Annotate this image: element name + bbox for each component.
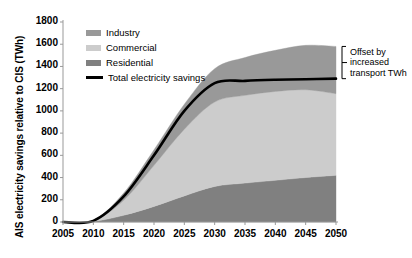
y-tick-label: 0 <box>20 215 58 226</box>
legend-item-total-electricity-savings: Total electricity savings <box>86 72 205 83</box>
legend-color-swatch-icon <box>86 45 101 51</box>
offset-annotation-line-3: transport TWh <box>350 68 407 79</box>
legend-item-label: Commercial <box>106 42 157 53</box>
y-tick-label: 800 <box>20 126 58 137</box>
plot-area <box>0 0 412 258</box>
y-tick-label: 200 <box>20 193 58 204</box>
y-tick-label: 1400 <box>20 59 58 70</box>
y-tick-label: 600 <box>20 148 58 159</box>
y-tick-label: 400 <box>20 171 58 182</box>
chart-container: AIS electricity savings relative to CIS … <box>0 0 412 258</box>
legend-item-label: Industry <box>106 27 140 38</box>
legend-item-label: Total electricity savings <box>108 72 205 83</box>
legend-color-swatch-icon <box>86 30 101 36</box>
offset-annotation-line-1: Offset by <box>350 47 407 58</box>
legend-color-swatch-icon <box>86 60 101 66</box>
y-tick-label: 1600 <box>20 37 58 48</box>
y-tick-label: 1000 <box>20 104 58 115</box>
offset-annotation: Offset by increased transport TWh <box>350 47 407 79</box>
legend-item-residential: Residential <box>86 57 153 68</box>
offset-bracket-icon <box>342 46 347 78</box>
legend-item-commercial: Commercial <box>86 42 157 53</box>
legend-item-industry: Industry <box>86 27 140 38</box>
legend-line-swatch-icon <box>86 76 103 79</box>
y-tick-label: 1200 <box>20 82 58 93</box>
y-tick-label: 1800 <box>20 15 58 26</box>
x-tick-label: 2050 <box>318 228 354 239</box>
offset-annotation-line-2: increased <box>350 57 407 68</box>
legend-item-label: Residential <box>106 57 153 68</box>
